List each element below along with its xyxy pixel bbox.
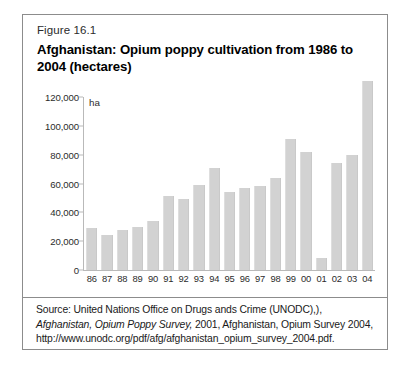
x-axis-tick-label: 92 [176, 273, 191, 284]
y-axis-labels: 120,000100,00080,00060,00040,00020,0000 [37, 87, 83, 283]
y-axis-tick [79, 241, 83, 242]
bar [239, 188, 250, 270]
bar [254, 186, 265, 270]
bar [86, 228, 97, 270]
bar [147, 221, 158, 270]
bar [224, 192, 235, 270]
y-axis-tick [79, 183, 83, 184]
y-axis-tick [79, 125, 83, 126]
bar [300, 152, 311, 270]
source-note: Source: United Nations Office on Drugs a… [36, 303, 380, 347]
bar-series [84, 97, 375, 270]
bar [132, 227, 143, 270]
bar [193, 185, 204, 270]
bar [178, 199, 189, 270]
x-axis-line [83, 270, 375, 271]
x-axis-tick-label: 88 [115, 273, 130, 284]
bar [316, 258, 327, 270]
bar [346, 155, 357, 270]
y-axis-tick-label: 40,000 [50, 207, 79, 218]
y-axis-tick-label: 80,000 [50, 149, 79, 160]
bar [163, 196, 174, 270]
x-axis-tick-label: 93 [191, 273, 206, 284]
y-axis-tick-label: 100,000 [45, 120, 79, 131]
figure-label: Figure 16.1 [37, 24, 96, 36]
x-axis-tick-label: 95 [222, 273, 237, 284]
chart-plot-area: 120,000100,00080,00060,00040,00020,0000 … [37, 87, 377, 283]
y-axis-tick [79, 270, 83, 271]
y-axis-tick-label: 20,000 [50, 236, 79, 247]
y-axis-tick [79, 97, 83, 98]
x-axis-tick-label: 04 [360, 273, 375, 284]
bar [209, 168, 220, 270]
x-axis-tick-label: 94 [207, 273, 222, 284]
source-italic-title: Afghanistan, Opium Poppy Survey, [36, 319, 192, 330]
x-axis-tick-label: 00 [298, 273, 313, 284]
bar [331, 163, 342, 270]
x-axis-tick-label: 97 [252, 273, 267, 284]
source-divider [23, 297, 387, 298]
bar [285, 139, 296, 270]
x-axis-tick-label: 01 [314, 273, 329, 284]
bar [362, 81, 373, 270]
bar [117, 230, 128, 270]
x-axis-tick-label: 87 [99, 273, 114, 284]
figure-container: Figure 16.1 Afghanistan: Opium poppy cul… [22, 14, 388, 350]
y-axis-tick-label: 120,000 [45, 92, 79, 103]
x-axis-tick-label: 89 [130, 273, 145, 284]
x-axis-tick-label: 91 [161, 273, 176, 284]
source-prefix: Source: United Nations Office on Drugs a… [36, 304, 322, 315]
y-axis-tick-label: 60,000 [50, 178, 79, 189]
figure-title: Afghanistan: Opium poppy cultivation fro… [37, 42, 367, 75]
x-axis-tick-label: 03 [344, 273, 359, 284]
bar [270, 178, 281, 270]
y-axis-tick [79, 154, 83, 155]
bar [101, 235, 112, 270]
x-axis-tick-label: 90 [145, 273, 160, 284]
x-axis-tick-label: 96 [237, 273, 252, 284]
x-axis-tick-label: 86 [84, 273, 99, 284]
x-axis-tick-label: 98 [268, 273, 283, 284]
x-axis-tick-label: 02 [329, 273, 344, 284]
x-axis-tick-label: 99 [283, 273, 298, 284]
y-axis-tick [79, 212, 83, 213]
x-axis-labels: 86878889909192939495969798990001020304 [84, 273, 375, 287]
